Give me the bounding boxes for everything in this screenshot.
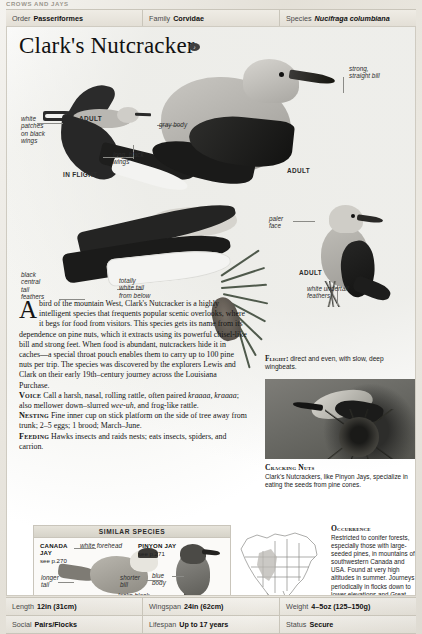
label-white-patches: white patches on black wings: [21, 115, 45, 145]
range-map: [237, 527, 323, 596]
stat-length-value: 12in (31cm): [37, 602, 77, 611]
label-adult-main: ADULT: [287, 167, 310, 174]
voice-call-1: kraaaa, kraaaa: [188, 391, 237, 400]
similar-species-heading: SIMILAR SPECIES: [34, 526, 230, 538]
label-totally-white-tail: totally white tail from below: [119, 277, 150, 299]
label-gray-body: gray body: [159, 121, 187, 128]
voice-text-1: Call a harsh, nasal, rolling rattle, oft…: [41, 391, 188, 400]
nesting-section: Nesting Fine inner cup on stick platform…: [19, 411, 247, 431]
canada-jay-name: CANADA JAY: [40, 542, 68, 556]
stat-length-key: Length: [12, 602, 34, 611]
nesting-label: Nesting: [19, 411, 49, 420]
species-plate: Clark's Nutcracker ♪: [6, 26, 416, 596]
pinyon-jay-ref: see p.271: [138, 550, 165, 557]
feeding-section: Feeding Hawks insects and raids nests; e…: [19, 432, 247, 452]
stat-status-key: Status: [286, 620, 306, 629]
stats-bar: Length 12in (31cm) Wingspan 24in (62cm) …: [6, 597, 416, 631]
canada-jay-ref: see p.270: [40, 557, 67, 564]
description-intro-text: bird of the mountain West, Clark's Nutcr…: [19, 299, 247, 390]
stats-row-1: Length 12in (31cm) Wingspan 24in (62cm) …: [6, 597, 416, 615]
stat-weight-value: 4–5oz (125–150g): [311, 602, 370, 611]
leader-line: [146, 580, 162, 581]
label-paler-face: paler face: [269, 215, 283, 230]
voice-call-2: wee-uh: [111, 401, 134, 410]
description-intro: A bird of the mountain West, Clark's Nut…: [19, 299, 247, 391]
stat-social-key: Social: [12, 620, 32, 629]
taxonomy-species-value: Nucifraga columbiana: [315, 14, 390, 23]
stat-lifespan-value: Up to 17 years: [179, 620, 228, 629]
canada-jay-label-tail: longer tail: [41, 574, 59, 589]
song-badge-icon: ♪: [189, 43, 200, 51]
stat-weight: Weight 4–5oz (125–150g): [280, 598, 416, 615]
nesting-text: Fine inner cup on stick platform on the …: [19, 411, 247, 430]
field-guide-page: CROWS AND JAYS Order Passeriformes Famil…: [0, 0, 422, 634]
label-adult-right: ADULT: [299, 269, 322, 276]
feeding-label: Feeding: [19, 432, 49, 441]
photo-pine-cone: [339, 417, 379, 457]
taxonomy-family-key: Family: [149, 14, 170, 23]
range-shading: [257, 549, 277, 581]
stat-social-value: Pairs/Flocks: [35, 620, 77, 629]
stat-wingspan-value: 24in (62cm): [184, 602, 224, 611]
flight-note-label: Flight:: [265, 354, 288, 363]
stat-wingspan-key: Wingspan: [149, 602, 181, 611]
stat-lifespan: Lifespan Up to 17 years: [143, 616, 280, 633]
label-white-undertail: white undertail feathers: [307, 285, 373, 300]
stat-status-value: Secure: [309, 620, 333, 629]
label-strong-straight-bill: strong, straight bill: [349, 65, 380, 80]
leader-line: [58, 582, 74, 583]
voice-label: Voice: [19, 391, 41, 400]
similar-species-box: SIMILAR SPECIES CANADA JAY see p.270 whi…: [33, 525, 231, 596]
leader-line: [172, 576, 184, 577]
taxonomy-bar: Order Passeriformes Family Corvidae Spec…: [6, 9, 416, 27]
voice-section: Voice Call a harsh, nasal, rolling rattl…: [19, 391, 247, 411]
feeding-text: Hawks insects and raids nests; eats inse…: [19, 432, 226, 451]
label-in-flight: IN FLIGHT: [63, 171, 97, 178]
taxonomy-order: Order Passeriformes: [6, 10, 143, 26]
range-map-svg: [237, 527, 323, 596]
leader-line: [343, 77, 344, 93]
photo-cracking-nuts: [265, 379, 415, 459]
taxonomy-order-value: Passeriformes: [33, 14, 83, 23]
page-title: Clark's Nutcracker: [19, 33, 195, 59]
pinyon-jay-label-tail: lacks black- and-white on tail: [118, 592, 152, 596]
label-adult-flight: ADULT: [79, 115, 102, 122]
occurrence-text: Restricted to conifer forests, especiall…: [331, 534, 416, 596]
voice-text-3: , and frog-like rattle.: [134, 401, 199, 410]
drop-cap: A: [19, 299, 39, 320]
taxonomy-species: Species Nucifraga columbiana: [280, 10, 416, 26]
pinyon-jay-name: PINYON JAY: [138, 542, 176, 549]
pinyon-jay-label-bill: shorter bill: [120, 574, 140, 589]
taxonomy-order-key: Order: [12, 14, 30, 23]
stat-social: Social Pairs/Flocks: [6, 616, 143, 633]
stat-status: Status Secure: [280, 616, 416, 633]
leader-line: [74, 548, 96, 549]
taxonomy-family: Family Corvidae: [143, 10, 280, 26]
taxonomy-species-key: Species: [286, 14, 312, 23]
running-head: CROWS AND JAYS: [6, 0, 69, 8]
flight-note: Flight: direct and even, with slow, deep…: [265, 355, 415, 372]
stats-row-2: Social Pairs/Flocks Lifespan Up to 17 ye…: [6, 615, 416, 634]
stat-lifespan-key: Lifespan: [149, 620, 176, 629]
occurrence-title: Occurrence: [331, 524, 371, 533]
photo-caption-title: Cracking Nuts: [265, 463, 416, 472]
taxonomy-family-value: Corvidae: [173, 14, 204, 23]
species-description: A bird of the mountain West, Clark's Nut…: [19, 299, 247, 452]
stat-weight-key: Weight: [286, 602, 308, 611]
label-long-black-wings: long, black wings: [113, 151, 144, 166]
stat-length: Length 12in (31cm): [6, 598, 143, 615]
leader-line: [293, 221, 315, 222]
stat-wingspan: Wingspan 24in (62cm): [143, 598, 280, 615]
photo-caption-text: Clark's Nutcrackers, like Pinyon Jays, s…: [265, 473, 416, 489]
